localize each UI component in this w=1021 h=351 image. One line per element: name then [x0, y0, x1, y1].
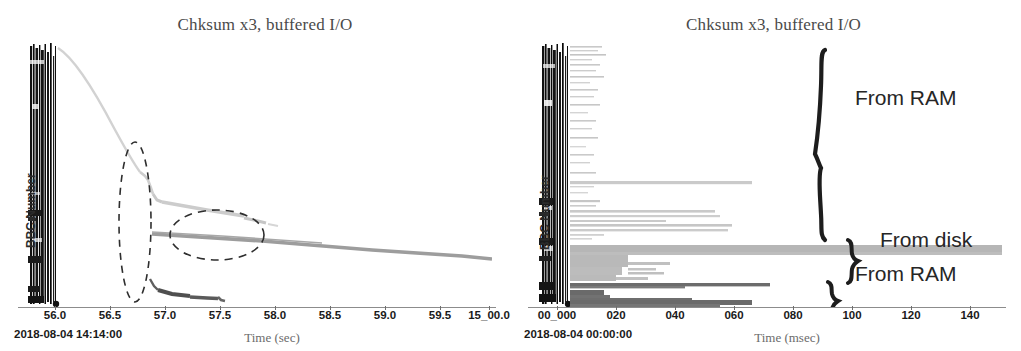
panel-left-x-axis [18, 307, 496, 308]
brace-from-ram-bottom [828, 282, 838, 307]
x-tick-1: 020 [606, 309, 625, 321]
panel-left-y-label: BBC Number [24, 173, 38, 248]
panel-left: Chksum x3, buffered I/O [0, 0, 510, 351]
annotation-from-ram-top: From RAM [855, 86, 957, 110]
x-tick-3: 57.5 [209, 309, 231, 321]
panel-right-datestamp: 2018-08-04 00:00:00 [524, 328, 632, 340]
annotation-from-ram-bottom: From RAM [855, 262, 957, 286]
trace-lower-dark-gray [150, 279, 225, 301]
trace-mid-gray-line [152, 232, 492, 259]
panel-right: Chksum x3, buffered I/O [510, 0, 1021, 351]
panel-left-datestamp: 2018-08-04 14:14:00 [14, 328, 122, 340]
annotation-from-disk: From disk [880, 228, 972, 252]
brace-from-ram-top [815, 50, 825, 240]
x-tick-8: 15_00.0 [468, 309, 510, 321]
x-tick-3: 060 [724, 309, 743, 321]
x-tick-1: 56.5 [99, 309, 121, 321]
x-tick-6: 59.0 [374, 309, 396, 321]
panel-right-y-label: BBC Number [538, 175, 552, 250]
panel-right-title: Chksum x3, buffered I/O [510, 15, 1021, 35]
group-from-ram-top [570, 46, 752, 240]
trace-upper-light-gray [58, 48, 278, 226]
x-tick-0: 56.0 [44, 309, 66, 321]
panel-left-x-ticks: 56.0 56.5 57.0 57.5 58.0 58.5 59.0 59.5 … [0, 309, 510, 327]
x-tick-7: 140 [960, 309, 979, 321]
figure-root: Chksum x3, buffered I/O [0, 0, 1021, 351]
x-tick-6: 120 [901, 309, 920, 321]
x-tick-5: 100 [842, 309, 861, 321]
panel-left-plot-area [22, 42, 492, 307]
x-tick-5: 58.5 [319, 309, 341, 321]
x-tick-2: 040 [665, 309, 684, 321]
x-tick-0: 00_000 [538, 309, 576, 321]
panel-left-title: Chksum x3, buffered I/O [0, 15, 520, 35]
panel-right-x-axis [528, 307, 1006, 308]
x-tick-4: 58.0 [264, 309, 286, 321]
panel-left-canvas [22, 42, 492, 307]
x-tick-7: 59.5 [429, 309, 451, 321]
panel-right-x-label: Time (msec) [754, 330, 820, 346]
panel-right-x-ticks: 00_000 020 040 060 080 100 120 140 [510, 309, 1020, 327]
group-from-ram-bottom [570, 283, 770, 307]
x-tick-2: 57.0 [154, 309, 176, 321]
panel-left-x-label: Time (sec) [244, 330, 300, 346]
x-tick-4: 080 [783, 309, 802, 321]
